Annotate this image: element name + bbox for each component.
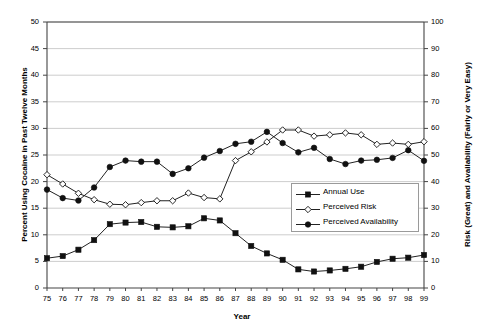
data-point bbox=[280, 257, 285, 262]
data-point bbox=[389, 140, 395, 146]
data-point bbox=[358, 132, 364, 138]
legend-item: Perceived Risk bbox=[292, 199, 418, 214]
data-point bbox=[358, 158, 364, 164]
data-point bbox=[390, 155, 396, 161]
data-point bbox=[327, 132, 333, 138]
y-tick-label-right: 80 bbox=[431, 70, 455, 79]
data-point bbox=[405, 141, 411, 147]
data-point bbox=[138, 159, 144, 165]
data-point bbox=[311, 269, 316, 274]
y-tick-label-left: 0 bbox=[17, 283, 39, 292]
y-tick-label-right: 100 bbox=[431, 17, 455, 26]
y-tick-label-right: 30 bbox=[431, 203, 455, 212]
y-tick-label-left: 15 bbox=[17, 203, 39, 212]
data-point bbox=[296, 150, 302, 156]
y-tick-label-right: 90 bbox=[431, 44, 455, 53]
chart-legend: Annual UsePerceived RiskPerceived Availa… bbox=[291, 183, 419, 232]
data-point bbox=[405, 147, 411, 153]
y-tick-label-left: 5 bbox=[17, 256, 39, 265]
data-point bbox=[311, 145, 317, 151]
legend-item: Perceived Availability bbox=[292, 214, 418, 229]
data-point bbox=[421, 252, 426, 257]
data-point bbox=[60, 195, 66, 201]
data-point bbox=[76, 247, 81, 252]
data-point bbox=[107, 201, 113, 207]
data-point bbox=[92, 238, 97, 243]
data-point bbox=[305, 192, 310, 197]
data-point bbox=[311, 133, 317, 139]
y-tick-label-right: 0 bbox=[431, 283, 455, 292]
data-point bbox=[296, 267, 301, 272]
y-tick-label-right: 70 bbox=[431, 97, 455, 106]
data-point bbox=[201, 155, 207, 161]
data-point bbox=[107, 222, 112, 227]
data-point bbox=[186, 166, 192, 172]
y-tick-label-left: 25 bbox=[17, 150, 39, 159]
legend-marker-icon bbox=[295, 186, 321, 197]
data-point bbox=[305, 222, 311, 228]
data-point bbox=[91, 196, 97, 202]
y-tick-label-left: 35 bbox=[17, 97, 39, 106]
data-point bbox=[170, 225, 175, 230]
legend-label: Perceived Availability bbox=[321, 217, 398, 226]
data-point bbox=[295, 127, 301, 133]
data-point bbox=[374, 141, 380, 147]
data-point bbox=[44, 187, 50, 193]
data-point bbox=[154, 198, 160, 204]
y-tick-label-right: 60 bbox=[431, 123, 455, 132]
data-point bbox=[248, 149, 254, 155]
y-tick-label-right: 10 bbox=[431, 256, 455, 265]
x-tick-label: 99 bbox=[415, 294, 433, 303]
legend-label: Perceived Risk bbox=[321, 202, 376, 211]
data-point bbox=[122, 202, 128, 208]
data-point bbox=[123, 158, 129, 164]
data-point bbox=[233, 231, 238, 236]
plot-area bbox=[0, 0, 484, 334]
data-point bbox=[185, 190, 191, 196]
data-point bbox=[264, 251, 269, 256]
legend-marker-icon bbox=[295, 216, 321, 227]
data-point bbox=[217, 148, 223, 154]
legend-item: Annual Use bbox=[292, 184, 418, 199]
legend-label: Annual Use bbox=[321, 187, 364, 196]
data-point bbox=[107, 164, 113, 170]
data-point bbox=[217, 196, 223, 202]
y-tick-label-left: 50 bbox=[17, 17, 39, 26]
data-point bbox=[305, 206, 311, 212]
data-point bbox=[44, 256, 49, 261]
data-point bbox=[44, 171, 50, 177]
data-point bbox=[60, 253, 65, 258]
data-point bbox=[91, 185, 97, 191]
data-point bbox=[75, 190, 81, 196]
data-point bbox=[169, 198, 175, 204]
y-tick-label-right: 40 bbox=[431, 177, 455, 186]
y-tick-label-right: 20 bbox=[431, 230, 455, 239]
data-point bbox=[248, 139, 254, 145]
data-point bbox=[327, 268, 332, 273]
data-point bbox=[390, 256, 395, 261]
data-point bbox=[280, 140, 286, 146]
y-tick-label-left: 10 bbox=[17, 230, 39, 239]
data-point bbox=[343, 161, 349, 167]
data-point bbox=[232, 157, 238, 163]
data-point bbox=[217, 218, 222, 223]
data-point bbox=[154, 224, 159, 229]
data-point bbox=[359, 264, 364, 269]
data-point bbox=[201, 194, 207, 200]
data-point bbox=[374, 259, 379, 264]
data-point bbox=[233, 141, 239, 147]
data-point bbox=[139, 219, 144, 224]
data-point bbox=[327, 156, 333, 162]
data-point bbox=[421, 158, 427, 164]
y-tick-label-left: 20 bbox=[17, 177, 39, 186]
legend-marker-icon bbox=[295, 201, 321, 212]
data-point bbox=[374, 157, 380, 163]
cocaine-trends-chart: Percent Using Cocaine in Past Twelve Mon… bbox=[0, 0, 484, 334]
y-tick-label-left: 40 bbox=[17, 70, 39, 79]
data-point bbox=[343, 266, 348, 271]
y-tick-label-left: 30 bbox=[17, 123, 39, 132]
data-point bbox=[76, 198, 82, 204]
data-point bbox=[170, 171, 176, 177]
data-point bbox=[342, 130, 348, 136]
data-point bbox=[186, 224, 191, 229]
